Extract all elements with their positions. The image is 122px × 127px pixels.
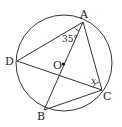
segment-bc bbox=[44, 90, 102, 110]
label-d: D bbox=[5, 55, 14, 68]
label-a: A bbox=[79, 8, 89, 21]
label-c: C bbox=[103, 90, 111, 103]
angle-label-x: x bbox=[91, 76, 96, 86]
label-o: O bbox=[53, 59, 62, 72]
angle-label-35: 35° bbox=[62, 34, 78, 44]
circle-diagram: A D O C B 35° x bbox=[0, 0, 122, 127]
angle-arc-a bbox=[74, 27, 79, 31]
center-dot bbox=[62, 62, 65, 65]
label-b: B bbox=[37, 110, 45, 123]
